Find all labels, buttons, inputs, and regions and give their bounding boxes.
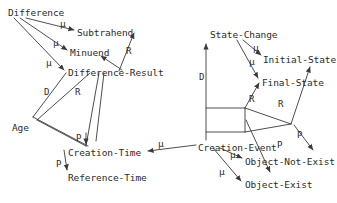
edge-label-r-minuend: R: [126, 47, 131, 56]
node-object-not-exist[interactable]: Object-Not-Exist: [245, 157, 335, 167]
edge-label-r-age: R: [75, 88, 80, 97]
edge-label-p-reference-time: P: [56, 160, 61, 169]
edge-label-mu-creation-event-not-exist: µ: [230, 150, 236, 159]
node-creation-event[interactable]: Creation-Event: [198, 143, 277, 153]
edge-age-to-difference-result-d: [33, 73, 66, 117]
edge-label-d-state-change: D: [199, 73, 204, 82]
node-object-exist[interactable]: Object-Exist: [245, 180, 312, 190]
edge-hinge-diagonal-right: [245, 108, 291, 124]
edge-label-mu-creation-event-exist: µ: [219, 167, 225, 176]
edge-label-p-creation-time: P: [76, 134, 81, 143]
node-difference[interactable]: Difference: [8, 8, 64, 18]
edge-difference-to-subtrahend: [26, 18, 74, 30]
edge-label-r-final-state: R: [249, 95, 254, 104]
edge-creation-event-to-creation-time: [148, 145, 196, 151]
edge-label-p-object-not-exist: P: [297, 131, 302, 140]
edge-label-p-object-exist: P: [277, 141, 282, 150]
edge-hinge-diagonal-left: [245, 124, 291, 132]
diagram-edges-layer: [0, 0, 337, 203]
edge-label-r-initial-state: R: [278, 100, 283, 109]
edge-hinge-to-initial-state-r: [291, 67, 310, 124]
node-subtrahend[interactable]: Subtrahend: [77, 28, 133, 38]
node-final-state[interactable]: Final-State: [262, 78, 324, 88]
edge-label-mu-difference-difference-result: µ: [46, 58, 52, 67]
edge-label-mu-difference-minuend: µ: [53, 38, 59, 47]
node-minuend[interactable]: Minuend: [70, 48, 109, 58]
edge-label-mu-state-change-initial: µ: [253, 43, 259, 52]
node-difference-result[interactable]: Difference-Result: [68, 68, 164, 78]
node-initial-state[interactable]: Initial-State: [263, 55, 336, 65]
edge-label-d-age: D: [44, 88, 49, 97]
edge-age-to-reference-time-p: [64, 150, 67, 170]
diagram-canvas: Difference Subtrahend Minuend Difference…: [0, 0, 337, 203]
node-creation-time[interactable]: Creation-Time: [68, 148, 141, 158]
edge-label-mu-state-change-final: µ: [249, 57, 255, 66]
edge-label-mu-creation-time-event: µ: [158, 139, 164, 148]
node-reference-time[interactable]: Reference-Time: [68, 173, 147, 183]
node-age[interactable]: Age: [12, 123, 29, 133]
edge-label-mu-difference-subtrahend: µ: [60, 19, 66, 28]
node-state-change[interactable]: State-Change: [210, 30, 277, 40]
